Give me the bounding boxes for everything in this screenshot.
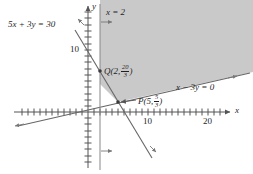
point-Q-y-fraction: 203 — [121, 64, 129, 78]
line-label-x-3y-0: x − 3y = 0 — [176, 83, 214, 92]
y-tick-label-10: 10 — [70, 45, 79, 54]
point-P-y-denominator: 3 — [154, 102, 159, 109]
y-axis-label: y — [92, 2, 96, 11]
line-label-5x-3y-30: 5x + 3y = 30 — [8, 20, 55, 29]
line-label-x-2: x = 2 — [106, 8, 125, 17]
x-axis-label: x — [235, 106, 239, 115]
point-P-letter: P — [138, 96, 144, 106]
point-Q-letter: Q — [104, 66, 111, 76]
point-Q-marker — [98, 69, 102, 73]
point-P-x: 5 — [147, 96, 152, 106]
direction-arrow-line1-lower — [150, 146, 156, 152]
graph-figure: x y 10 20 10 5x + 3y = 30 x − 3y = 0 x =… — [0, 0, 253, 174]
point-P-marker — [116, 100, 120, 104]
direction-arrow-line1-upper — [78, 19, 84, 25]
point-Q-label: Q(2, 203) — [104, 64, 132, 78]
x-tick-label-10: 10 — [143, 117, 152, 126]
point-P-label: P(5, 53) — [138, 94, 162, 108]
point-Q-x: 2 — [114, 66, 119, 76]
x-tick-label-20: 20 — [203, 117, 212, 126]
point-Q-y-denominator: 3 — [121, 72, 129, 79]
point-P-y-fraction: 53 — [154, 94, 159, 108]
